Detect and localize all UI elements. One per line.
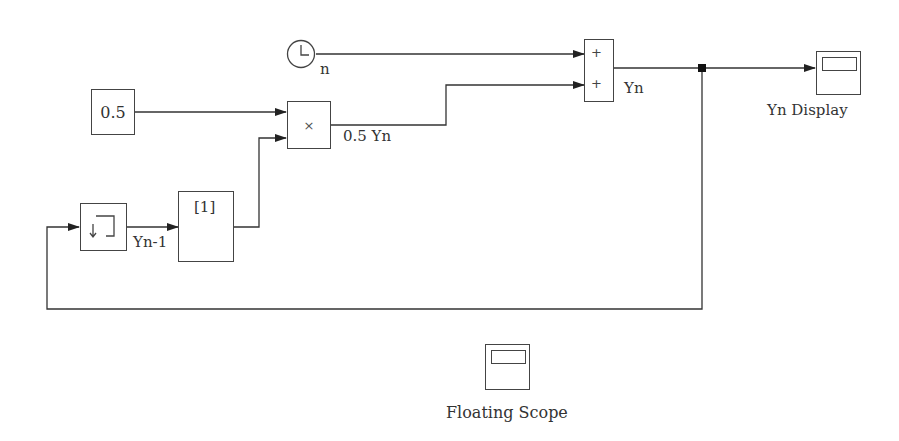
constant-value: 0.5: [100, 103, 125, 122]
constant-block[interactable]: 0.5: [91, 89, 135, 135]
sum-block[interactable]: + +: [584, 39, 614, 102]
product-output-label: 0.5 Yn: [343, 127, 391, 145]
selector-block[interactable]: [1]: [178, 191, 234, 262]
clock-block[interactable]: [286, 39, 316, 69]
wire-feedback: [47, 68, 702, 309]
wire-product-to-sum: [331, 85, 584, 125]
memory-output-label: Yn-1: [133, 233, 167, 251]
sum-output-label: Yn: [624, 79, 644, 97]
memory-icon: [81, 204, 126, 250]
scope-icon: [491, 350, 526, 364]
clock-icon: [286, 39, 316, 69]
scope-display-block[interactable]: [816, 51, 861, 95]
floating-scope-label: Floating Scope: [446, 403, 568, 422]
wire-selector-to-product: [234, 138, 286, 227]
product-block[interactable]: ×: [287, 101, 331, 149]
branch-point: [698, 64, 706, 72]
scope-display-label: Yn Display: [767, 101, 848, 119]
sum-sign-2: +: [591, 76, 602, 91]
clock-label: n: [320, 60, 330, 78]
product-symbol: ×: [304, 118, 315, 133]
selector-label: [1]: [194, 198, 215, 216]
sum-sign-1: +: [591, 45, 602, 60]
floating-scope-block[interactable]: [485, 344, 530, 390]
scope-icon: [822, 57, 857, 71]
signal-wires: [0, 0, 899, 441]
memory-block[interactable]: [80, 203, 127, 251]
